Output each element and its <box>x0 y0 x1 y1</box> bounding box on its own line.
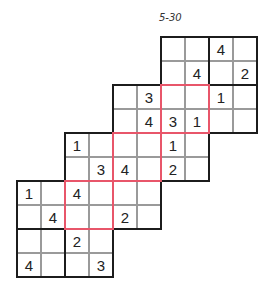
cell-r6-c0: 1 <box>17 181 41 205</box>
cell-r2-c7[interactable] <box>185 85 209 109</box>
overlap-box-border <box>112 180 162 182</box>
cell-r9-c0: 4 <box>17 253 41 277</box>
cell-r8-c1[interactable] <box>41 229 65 253</box>
cell-r4-c7[interactable] <box>185 133 209 157</box>
box-border <box>112 228 114 278</box>
overlap-box-border <box>64 228 114 230</box>
cell-r2-c4[interactable] <box>113 85 137 109</box>
cell-r3-c6: 3 <box>161 109 185 133</box>
cell-r5-c5[interactable] <box>137 157 161 181</box>
box-border <box>16 276 66 278</box>
overlap-box-border <box>112 180 114 230</box>
box-border <box>208 84 258 86</box>
cell-r0-c8: 4 <box>209 37 233 61</box>
box-border <box>160 180 162 230</box>
cell-r5-c6: 2 <box>161 157 185 181</box>
cell-r4-c4[interactable] <box>113 133 137 157</box>
cell-r2-c6[interactable] <box>161 85 185 109</box>
box-border <box>16 228 66 230</box>
box-border <box>208 132 258 134</box>
box-border <box>16 180 18 230</box>
overlap-box-border <box>112 132 162 134</box>
box-border <box>256 84 258 134</box>
cell-r6-c5[interactable] <box>137 181 161 205</box>
cell-r3-c4[interactable] <box>113 109 137 133</box>
box-border <box>160 36 210 38</box>
cell-r4-c5[interactable] <box>137 133 161 157</box>
overlap-box-border <box>112 132 114 182</box>
cell-r2-c9[interactable] <box>233 85 257 109</box>
cell-r9-c2[interactable] <box>65 253 89 277</box>
cell-r9-c3: 3 <box>89 253 113 277</box>
cell-r8-c3[interactable] <box>89 229 113 253</box>
cell-r3-c7: 1 <box>185 109 209 133</box>
cell-r5-c3: 3 <box>89 157 113 181</box>
box-border <box>208 132 210 182</box>
cell-r1-c8[interactable] <box>209 61 233 85</box>
box-border <box>16 180 66 182</box>
cell-r6-c1[interactable] <box>41 181 65 205</box>
cell-r7-c5[interactable] <box>137 205 161 229</box>
cell-r8-c0[interactable] <box>17 229 41 253</box>
cell-r6-c4[interactable] <box>113 181 137 205</box>
cell-r0-c7[interactable] <box>185 37 209 61</box>
cell-r5-c2[interactable] <box>65 157 89 181</box>
cell-r6-c3[interactable] <box>89 181 113 205</box>
sudoku-board: 44231431113421442243 <box>0 0 276 286</box>
box-border <box>16 228 18 278</box>
cell-r4-c6: 1 <box>161 133 185 157</box>
cell-r5-c7[interactable] <box>185 157 209 181</box>
cell-r7-c2[interactable] <box>65 205 89 229</box>
box-border <box>160 36 162 86</box>
cell-r1-c9: 2 <box>233 61 257 85</box>
overlap-box-border <box>160 132 162 182</box>
box-border <box>112 84 162 86</box>
cell-r7-c1: 4 <box>41 205 65 229</box>
cell-r0-c9[interactable] <box>233 37 257 61</box>
cell-r2-c8: 1 <box>209 85 233 109</box>
cell-r3-c5: 4 <box>137 109 161 133</box>
cell-r7-c4: 2 <box>113 205 137 229</box>
overlap-box-border <box>64 180 66 230</box>
cell-r5-c4: 4 <box>113 157 137 181</box>
box-border <box>112 84 114 134</box>
overlap-box-border <box>160 132 210 134</box>
cell-r4-c3[interactable] <box>89 133 113 157</box>
box-border <box>64 228 66 278</box>
cell-r3-c9[interactable] <box>233 109 257 133</box>
cell-r9-c1[interactable] <box>41 253 65 277</box>
cell-r8-c2: 2 <box>65 229 89 253</box>
box-border <box>256 36 258 86</box>
cell-r0-c6[interactable] <box>161 37 185 61</box>
box-border <box>112 228 162 230</box>
box-border <box>160 180 210 182</box>
box-border <box>64 132 66 182</box>
cell-r7-c3[interactable] <box>89 205 113 229</box>
cell-r2-c5: 3 <box>137 85 161 109</box>
cell-r1-c7: 4 <box>185 61 209 85</box>
cell-r6-c2: 4 <box>65 181 89 205</box>
cell-r1-c6[interactable] <box>161 61 185 85</box>
cell-r7-c0[interactable] <box>17 205 41 229</box>
cell-r3-c8[interactable] <box>209 109 233 133</box>
box-border <box>208 36 210 86</box>
cell-r4-c2: 1 <box>65 133 89 157</box>
box-border <box>208 36 258 38</box>
box-border <box>64 132 114 134</box>
overlap-box-border <box>208 84 210 134</box>
box-border <box>64 276 114 278</box>
overlap-box-border <box>160 84 162 134</box>
overlap-box-border <box>64 180 114 182</box>
overlap-box-border <box>160 84 210 86</box>
